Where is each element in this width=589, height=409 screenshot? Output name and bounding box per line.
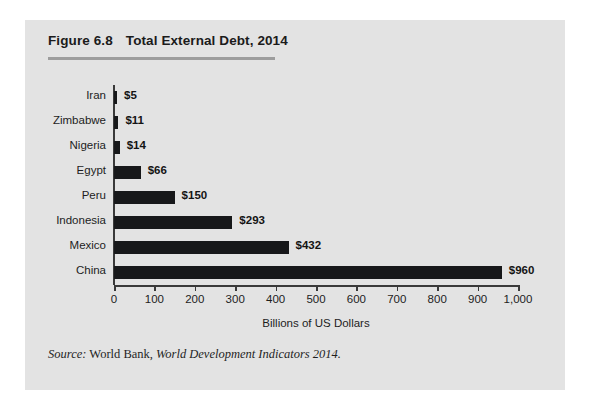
bar-value-label: $432	[296, 239, 322, 251]
source-note: Source: World Bank, World Development In…	[48, 347, 341, 362]
bar-row: Indonesia$293	[114, 210, 518, 235]
x-axis-tick	[276, 285, 278, 291]
bar-row: China$960	[114, 260, 518, 285]
x-axis-tick	[114, 285, 116, 291]
bar	[114, 241, 289, 254]
plot-area: Iran$5Zimbabwe$11Nigeria$14Egypt$66Peru$…	[114, 85, 518, 285]
category-label: China	[0, 264, 106, 276]
x-axis-tick-label: 900	[468, 293, 487, 305]
figure-number: Figure 6.8	[48, 33, 113, 48]
bar	[114, 116, 118, 129]
bar	[114, 216, 232, 229]
bar-value-label: $66	[148, 164, 167, 176]
category-label: Indonesia	[0, 214, 106, 226]
bar-row: Egypt$66	[114, 160, 518, 185]
x-axis-tick-label: 0	[111, 293, 117, 305]
category-label-wrap: Egypt	[0, 160, 106, 185]
bar-value-label: $960	[509, 264, 535, 276]
bar-value-label: $5	[124, 89, 137, 101]
figure-panel: Figure 6.8Total External Debt, 2014 Iran…	[25, 20, 565, 390]
category-label-wrap: Mexico	[0, 235, 106, 260]
x-axis-tick	[356, 285, 358, 291]
source-publisher: World Bank,	[89, 347, 153, 361]
x-axis-tick	[154, 285, 156, 291]
category-label-wrap: Indonesia	[0, 210, 106, 235]
x-axis-tick-label: 300	[226, 293, 245, 305]
category-label: Nigeria	[0, 139, 106, 151]
category-label: Egypt	[0, 164, 106, 176]
x-axis-tick	[316, 285, 318, 291]
bar	[114, 191, 175, 204]
figure-title-text: Total External Debt, 2014	[126, 33, 288, 48]
x-axis-tick	[478, 285, 480, 291]
bar	[114, 266, 502, 279]
bar-value-label: $14	[127, 139, 146, 151]
source-work: World Development Indicators 2014.	[156, 347, 341, 361]
bar-value-label: $150	[182, 189, 208, 201]
x-axis-tick-label: 700	[387, 293, 406, 305]
bar	[114, 91, 117, 104]
category-label-wrap: Nigeria	[0, 135, 106, 160]
category-label: Mexico	[0, 239, 106, 251]
bar-row: Iran$5	[114, 85, 518, 110]
x-axis-tick-label: 500	[306, 293, 325, 305]
x-axis-tick-label: 600	[347, 293, 366, 305]
x-axis-tick	[235, 285, 237, 291]
category-label-wrap: Iran	[0, 85, 106, 110]
bar-chart: Iran$5Zimbabwe$11Nigeria$14Egypt$66Peru$…	[25, 75, 565, 320]
bar-row: Peru$150	[114, 185, 518, 210]
x-axis-tick-label: 200	[185, 293, 204, 305]
x-axis-tick-label: 100	[145, 293, 164, 305]
bar-row: Mexico$432	[114, 235, 518, 260]
category-label-wrap: Peru	[0, 185, 106, 210]
bar-row: Nigeria$14	[114, 135, 518, 160]
x-axis-tick	[437, 285, 439, 291]
category-label-wrap: China	[0, 260, 106, 285]
bar-value-label: $11	[125, 114, 144, 126]
category-label-wrap: Zimbabwe	[0, 110, 106, 135]
category-label: Peru	[0, 189, 106, 201]
bar	[114, 141, 120, 154]
x-axis-label: Billions of US Dollars	[114, 317, 518, 329]
category-label: Iran	[0, 89, 106, 101]
x-axis-tick	[195, 285, 197, 291]
x-axis-tick-label: 400	[266, 293, 285, 305]
x-axis-tick	[397, 285, 399, 291]
x-axis-tick-label: 800	[428, 293, 447, 305]
bar	[114, 166, 141, 179]
x-axis-tick	[518, 285, 520, 291]
bar-value-label: $293	[239, 214, 265, 226]
source-label: Source:	[48, 347, 86, 361]
page-title: Figure 6.8Total External Debt, 2014	[48, 33, 288, 48]
x-axis-tick-label: 1,000	[504, 293, 533, 305]
title-divider	[48, 57, 275, 60]
category-label: Zimbabwe	[0, 114, 106, 126]
bar-row: Zimbabwe$11	[114, 110, 518, 135]
